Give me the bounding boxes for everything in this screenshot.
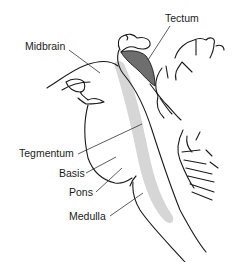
- midbrain-outline: [47, 61, 118, 90]
- cerebellum-upper: [175, 38, 224, 80]
- tegmentum-band: [115, 61, 174, 223]
- midbrain-leader: [69, 50, 100, 73]
- cerebellum-lower: [156, 66, 172, 118]
- cerebellum-folia-lower: [178, 130, 218, 200]
- colliculi-outline: [118, 34, 150, 52]
- pons-leader: [96, 168, 122, 192]
- tegmentum-leader: [78, 124, 142, 154]
- brainstem-diagram: Midbrain Tectum Tegmentum Basis Pons Med…: [0, 0, 246, 262]
- label-medulla: Medulla: [69, 211, 106, 222]
- label-pons: Pons: [69, 187, 93, 198]
- medulla-leader: [110, 193, 143, 216]
- fourth-ventricle-edge: [150, 84, 181, 120]
- label-basis: Basis: [59, 168, 85, 179]
- label-midbrain: Midbrain: [25, 41, 65, 52]
- label-tectum: Tectum: [165, 13, 199, 24]
- tectum-leader: [148, 26, 170, 60]
- label-tegmentum: Tegmentum: [19, 148, 74, 159]
